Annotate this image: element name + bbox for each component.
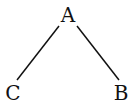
edge-a-c (17, 26, 59, 80)
node-b: B (114, 81, 129, 105)
tree-diagram: A C B (0, 0, 136, 109)
node-c: C (5, 81, 20, 105)
node-a: A (60, 3, 76, 27)
edge-a-b (77, 26, 119, 80)
